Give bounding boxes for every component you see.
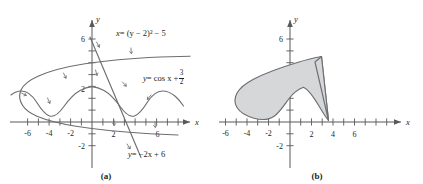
panel-b-plot: -6 -4 -2 2 4 6 6 2 -2 x y: [211, 0, 423, 184]
cosine-label: y= cos x +32: [143, 70, 184, 86]
x-tick-label-neg4: -4: [46, 129, 53, 138]
parabola-label-rhs: = (y − 2)² − 5: [120, 28, 166, 38]
y-axis-arrowhead: [89, 20, 95, 27]
x-tick-label-2: 2: [310, 130, 314, 139]
fraction-numerator: 3: [179, 70, 185, 78]
y-axis-label: y: [95, 14, 100, 24]
panel-a: -6 -4 -2 2 6 6 2 -2 x y: [0, 0, 212, 184]
x-tick-label-4: 4: [331, 130, 335, 139]
panel-a-plot: -6 -4 -2 2 6 6 2 -2 x y: [0, 0, 212, 184]
cosine-curve: [11, 87, 184, 117]
y-tick-label-neg2: -2: [276, 142, 283, 151]
x-tick-label-neg2: -2: [265, 129, 272, 138]
panel-b: -6 -4 -2 2 4 6 6 2 -2 x y (b): [211, 0, 423, 184]
line-label-rhs: = −2x + 6: [132, 149, 166, 159]
panel-b-caption: (b): [211, 171, 423, 181]
x-axis-arrowhead: [183, 119, 190, 125]
panel-a-caption: (a): [0, 171, 212, 181]
x-tick-label-neg6: -6: [222, 129, 229, 138]
bounded-region: [235, 57, 328, 121]
x-tick-label-neg4: -4: [244, 129, 251, 138]
y-axis-arrowhead: [287, 20, 293, 27]
cosine-label-rhs: = cos x +: [147, 73, 179, 83]
x-tick-label-neg6: -6: [24, 129, 31, 138]
axes-a: [10, 20, 190, 168]
cosine-label-fraction: 32: [179, 70, 185, 86]
x-axis-label: x: [405, 117, 410, 127]
fraction-denominator: 2: [179, 78, 185, 87]
x-axis-label: x: [194, 117, 199, 127]
line-curve: [90, 37, 141, 158]
x-tick-label-6: 6: [353, 130, 357, 139]
y-axis-label: y: [293, 14, 298, 24]
x-tick-label-neg2: -2: [67, 129, 74, 138]
figure-root: -6 -4 -2 2 6 6 2 -2 x y: [0, 0, 423, 184]
y-tick-label-6: 6: [81, 35, 85, 44]
line-label: y= −2x + 6: [128, 150, 165, 159]
y-tick-label-6: 6: [279, 35, 283, 44]
y-tick-label-neg2: -2: [78, 142, 85, 151]
parabola-label: x= (y − 2)² − 5: [116, 29, 166, 38]
x-axis-arrowhead: [394, 119, 401, 125]
